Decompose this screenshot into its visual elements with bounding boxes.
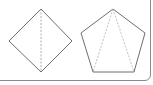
pentagon-diagonal-left-dashed bbox=[93, 9, 113, 72]
pentagon-outline bbox=[81, 9, 145, 72]
geometry-figures bbox=[0, 0, 153, 85]
square-diamond-figure bbox=[9, 9, 72, 72]
pentagon-diagonal-right-dashed bbox=[113, 9, 134, 72]
square-diamond-outline bbox=[9, 9, 72, 72]
pentagon-figure bbox=[81, 9, 145, 72]
